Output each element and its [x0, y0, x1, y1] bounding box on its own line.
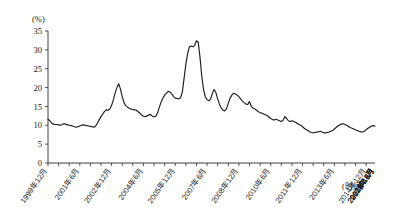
chart-canvas: 05101520253035 1999年12月2001年6月2002年12月20…: [0, 0, 402, 218]
x-axis-tick-labels: 1999年12月2001年6月2002年12月2004年6月2005年12月20…: [18, 165, 377, 205]
y-axis-tick-labels: 05101520253035: [33, 26, 42, 168]
y-axis-tick-label: 30: [33, 45, 42, 55]
y-axis-tick-label: 20: [33, 83, 42, 93]
y-axis-tick-label: 10: [33, 120, 42, 130]
x-axis-caption-label: (时间): [342, 181, 364, 191]
x-axis-tick-label: 1999年12月: [18, 165, 50, 205]
y-axis-group: 05101520253035: [33, 26, 48, 168]
y-axis-unit-label: (%): [32, 14, 45, 24]
y-axis-tick-label: 5: [38, 139, 42, 149]
y-axis-tick-label: 25: [33, 64, 42, 74]
x-axis-tick-label: 2010年6月: [243, 165, 272, 201]
x-axis-tick-label: 2007年6月: [179, 165, 208, 201]
x-axis-tick-label: 2005年12月: [145, 165, 177, 205]
y-axis-tick-label: 35: [33, 26, 42, 36]
x-axis-tick-label: 2001年6月: [52, 165, 81, 201]
x-axis-tick-label: 2011年12月: [273, 165, 305, 204]
line-chart-figure: 05101520253035 1999年12月2001年6月2002年12月20…: [0, 0, 402, 218]
x-axis-tick-label: 2008年12月: [209, 165, 241, 205]
x-axis-tick-label: 2002年12月: [81, 165, 113, 205]
x-axis-group: 1999年12月2001年6月2002年12月2004年6月2005年12月20…: [18, 163, 377, 205]
x-axis-tick-label: 2004年6月: [116, 165, 145, 201]
data-series-line: [48, 41, 375, 133]
x-axis-tick-label: 2013年6月: [307, 165, 336, 201]
y-axis-tick-label: 15: [33, 102, 42, 112]
